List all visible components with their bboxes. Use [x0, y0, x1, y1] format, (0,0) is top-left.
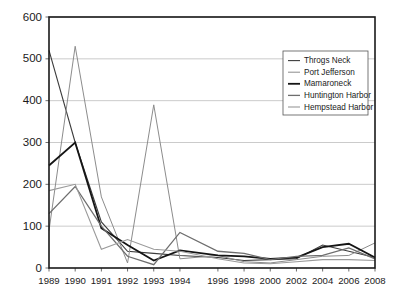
y-tick-label: 600 — [23, 11, 42, 23]
x-tick-label: 1994 — [169, 275, 191, 286]
x-tick-label: 1992 — [117, 275, 138, 286]
x-tick-label: 1996 — [207, 275, 228, 286]
line-chart: 0100200300400500600 19891990199119921993… — [0, 0, 400, 298]
y-tick-label: 300 — [23, 136, 42, 148]
legend-label-0: Throgs Neck — [304, 56, 351, 65]
legend-label-3: Huntington Harbor — [304, 91, 371, 100]
y-tick-label: 200 — [23, 178, 42, 190]
x-tick-label: 1989 — [38, 275, 59, 286]
x-tick-label: 2000 — [260, 275, 281, 286]
x-tick-label: 2008 — [364, 275, 385, 286]
x-tick-label: 2004 — [312, 275, 334, 286]
legend-label-1: Port Jefferson — [304, 68, 355, 77]
y-tick-label: 0 — [36, 262, 42, 274]
legend-label-2: Mamaroneck — [304, 79, 352, 88]
chart-canvas: 0100200300400500600 19891990199119921993… — [0, 0, 400, 298]
chart-legend: Throgs NeckPort JeffersonMamaroneckHunti… — [283, 51, 373, 115]
legend-label-4: Hempstead Harbor — [304, 103, 373, 112]
y-tick-label: 500 — [23, 52, 42, 64]
y-tick-label: 400 — [23, 94, 42, 106]
x-tick-label: 1998 — [233, 275, 254, 286]
x-tick-label: 1990 — [65, 275, 86, 286]
x-tick-label: 1993 — [143, 275, 164, 286]
x-tick-label: 2002 — [286, 275, 307, 286]
x-tick-label: 2006 — [338, 275, 359, 286]
x-tick-label: 1991 — [91, 275, 112, 286]
y-tick-label: 100 — [23, 220, 42, 232]
